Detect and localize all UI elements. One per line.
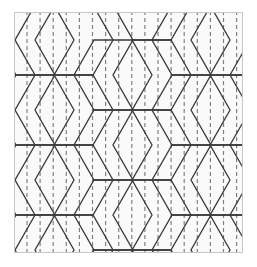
hexagon-cell [191, 215, 243, 253]
hexagon-cell [191, 145, 243, 215]
figure-frame [14, 12, 243, 253]
hexagon-cell [15, 13, 35, 40]
hexagon-cell [191, 75, 243, 145]
hexagon-pattern-svg [15, 13, 243, 253]
hexagon-cell [15, 250, 35, 253]
hexagon-cell [35, 13, 113, 75]
hexagon-cell [152, 215, 230, 253]
hexagon-cells [15, 13, 243, 253]
dashed-guide-lines [27, 13, 237, 253]
figure-root [0, 0, 257, 267]
hexagon-cell [15, 145, 74, 215]
hexagon-cell [35, 215, 113, 253]
hexagon-cell [152, 13, 230, 75]
hexagon-cell [113, 13, 191, 40]
hexagon-cell [15, 75, 74, 145]
